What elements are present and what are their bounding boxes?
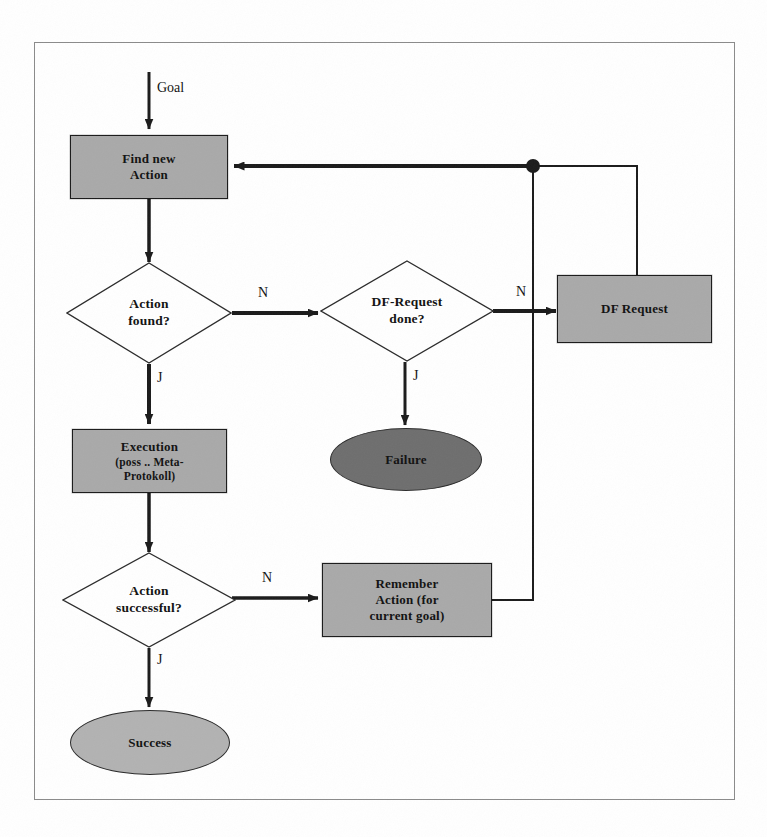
- flowchart-canvas: DF-Request done? --> Execution --> DF Re…: [0, 0, 767, 837]
- execution-line3: Protokoll): [124, 469, 176, 483]
- junction-dot: [526, 159, 540, 173]
- failure-label: Failure: [385, 452, 427, 468]
- label-df-done-no: N: [516, 284, 526, 300]
- execution-line2: (poss .. Meta-: [115, 455, 184, 469]
- node-action-successful[interactable]: Action successful?: [62, 552, 236, 648]
- success-label: Success: [128, 735, 171, 751]
- action-successful-line1: Action: [116, 583, 182, 600]
- find-new-action-line2: Action: [130, 167, 168, 183]
- label-action-successful-yes: J: [157, 652, 162, 668]
- node-remember-action[interactable]: Remember Action (for current goal): [322, 563, 492, 637]
- df-request-line1: DF Request: [601, 301, 668, 317]
- remember-action-line2: Action (for: [375, 592, 438, 608]
- df-request-done-line1: DF-Request: [372, 294, 443, 311]
- label-action-found-no: N: [258, 285, 268, 301]
- node-df-request[interactable]: DF Request: [557, 275, 712, 343]
- edge-dfrequest-feedback: [533, 166, 637, 275]
- node-find-new-action[interactable]: Find new Action: [70, 135, 228, 199]
- node-success[interactable]: Success: [70, 710, 230, 775]
- node-execution[interactable]: Execution (poss .. Meta- Protokoll): [72, 429, 227, 493]
- node-action-found[interactable]: Action found?: [66, 262, 232, 364]
- remember-action-line1: Remember: [376, 576, 439, 592]
- df-request-done-line2: done?: [372, 311, 443, 328]
- node-failure[interactable]: Failure: [330, 428, 482, 491]
- edge-remember-feedback: [492, 166, 533, 600]
- remember-action-line3: current goal): [370, 608, 445, 624]
- find-new-action-line1: Find new: [122, 151, 175, 167]
- action-found-line1: Action: [128, 296, 170, 313]
- label-df-done-yes: J: [413, 368, 418, 384]
- label-action-successful-no: N: [262, 570, 272, 586]
- action-found-line2: found?: [128, 313, 170, 330]
- connector-layer: DF-Request done? --> Execution --> DF Re…: [0, 0, 767, 837]
- execution-line1: Execution: [121, 439, 178, 455]
- node-df-request-done[interactable]: DF-Request done?: [320, 260, 494, 362]
- label-action-found-yes: J: [157, 370, 162, 386]
- goal-label: Goal: [157, 80, 184, 96]
- action-successful-line2: successful?: [116, 600, 182, 617]
